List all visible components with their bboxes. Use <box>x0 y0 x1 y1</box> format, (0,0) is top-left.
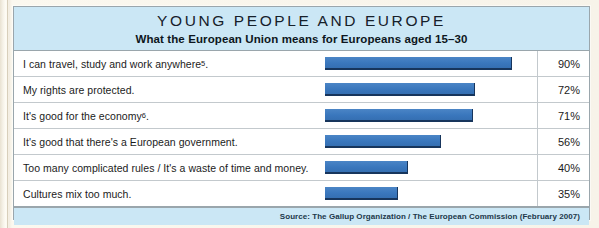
bar-track <box>325 103 538 128</box>
value-label: 72% <box>538 77 589 102</box>
row-label-text: Cultures mix too much. <box>23 188 131 200</box>
value-label: 56% <box>538 129 589 154</box>
chart-row: Cultures mix too much.35% <box>14 181 589 207</box>
row-label-text: My rights are protected. <box>23 84 135 96</box>
chart-row: Too many complicated rules / It's a wast… <box>14 155 589 181</box>
value-label: 40% <box>538 155 589 180</box>
value-bar <box>325 135 441 148</box>
value-label: 71% <box>538 103 589 128</box>
row-label: Cultures mix too much. <box>14 181 325 206</box>
chart-figure: YOUNG PEOPLE AND EUROPE What the Europea… <box>13 6 590 220</box>
value-label: 35% <box>538 181 589 206</box>
page-gutter-line <box>7 0 8 228</box>
bar-track <box>325 181 538 206</box>
bar-track <box>325 155 538 180</box>
source-note: Source: The Gallup Organization / The Eu… <box>280 212 580 221</box>
chart-subtitle: What the European Union means for Europe… <box>14 31 589 47</box>
row-label: My rights are protected. <box>14 77 325 102</box>
value-bar <box>325 109 473 122</box>
value-label: 90% <box>538 51 589 76</box>
value-bar <box>325 187 398 200</box>
chart-footer: Source: The Gallup Organization / The Eu… <box>14 207 589 225</box>
row-label: It's good that there's a European govern… <box>14 129 325 154</box>
row-label-text: It's good that there's a European govern… <box>23 136 238 148</box>
chart-row: I can travel, study and work anywhere5.9… <box>14 51 589 77</box>
bar-track <box>325 129 538 154</box>
row-label: It's good for the economy6. <box>14 103 325 128</box>
chart-rows: I can travel, study and work anywhere5.9… <box>14 51 589 207</box>
row-label-text: Too many complicated rules / It's a wast… <box>23 162 309 174</box>
row-label: Too many complicated rules / It's a wast… <box>14 155 325 180</box>
row-label-tail: . <box>205 58 208 70</box>
row-label: I can travel, study and work anywhere5. <box>14 51 325 76</box>
chart-title: YOUNG PEOPLE AND EUROPE <box>14 11 589 31</box>
chart-row: It's good that there's a European govern… <box>14 129 589 155</box>
row-label-text: I can travel, study and work anywhere <box>23 58 201 70</box>
chart-row: It's good for the economy6.71% <box>14 103 589 129</box>
row-label-text: It's good for the economy <box>23 110 142 122</box>
chart-row: My rights are protected.72% <box>14 77 589 103</box>
row-label-tail: . <box>146 110 149 122</box>
value-bar <box>325 161 408 174</box>
chart-header: YOUNG PEOPLE AND EUROPE What the Europea… <box>14 7 589 51</box>
bar-track <box>325 77 538 102</box>
value-bar <box>325 57 512 70</box>
bar-track <box>325 51 538 76</box>
value-bar <box>325 83 475 96</box>
